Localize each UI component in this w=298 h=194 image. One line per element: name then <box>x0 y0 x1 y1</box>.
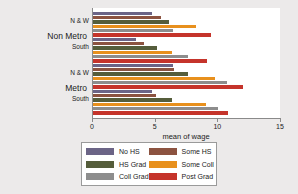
outer-group-label-non-metro: Non Metro <box>47 31 87 41</box>
bar <box>93 111 228 115</box>
legend-item-left-2[interactable]: Coll Grad <box>86 171 149 182</box>
bar <box>93 98 172 102</box>
legend-swatch-icon <box>86 173 114 180</box>
legend-swatch-icon <box>149 161 177 168</box>
inner-group-label-nonmetro-south: South <box>72 43 89 50</box>
bar <box>93 103 206 107</box>
legend-swatch-icon <box>86 148 114 155</box>
bar <box>93 68 174 72</box>
x-tick-label-15: 15 <box>276 122 284 131</box>
x-tick-label-5: 5 <box>153 122 157 131</box>
legend-label: HS Grad <box>119 161 146 168</box>
x-tick-label-0: 0 <box>90 122 94 131</box>
bar <box>93 55 188 59</box>
bar <box>93 107 218 111</box>
bar <box>93 20 169 24</box>
bar <box>93 29 173 33</box>
legend-swatch-icon <box>149 173 177 180</box>
bar <box>93 85 243 89</box>
inner-group-label-metro-nw: N & W <box>70 69 89 76</box>
bar <box>93 25 196 29</box>
bar <box>93 46 157 50</box>
legend-item-right-1[interactable]: Some Coll <box>149 159 214 170</box>
x-tick-label-10: 10 <box>213 122 221 131</box>
bar <box>93 59 207 63</box>
legend-swatch-icon <box>86 161 114 168</box>
chart-figure: 051015 mean of wage Non Metro Metro N & … <box>0 0 298 194</box>
bar <box>93 64 173 68</box>
legend-column-left: No HSHS GradColl Grad <box>86 146 149 182</box>
legend-item-right-2[interactable]: Post Grad <box>149 171 214 182</box>
legend: No HSHS GradColl Grad Some HSSome CollPo… <box>81 142 217 186</box>
x-axis-line <box>92 118 280 119</box>
bar <box>93 77 215 81</box>
legend-item-right-0[interactable]: Some HS <box>149 146 214 157</box>
y-axis-line <box>92 8 93 118</box>
legend-label: Coll Grad <box>119 173 149 180</box>
bar <box>93 94 156 98</box>
legend-label: No HS <box>119 148 140 155</box>
legend-label: Post Grad <box>182 173 214 180</box>
bar <box>93 42 144 46</box>
bar <box>93 72 188 76</box>
inner-group-label-nonmetro-nw: N & W <box>70 17 89 24</box>
bar <box>93 33 211 37</box>
bar <box>93 12 152 16</box>
x-axis-title: mean of wage <box>92 132 280 141</box>
legend-item-left-0[interactable]: No HS <box>86 146 149 157</box>
inner-group-label-metro-south: South <box>72 95 89 102</box>
bar <box>93 51 172 55</box>
legend-label: Some Coll <box>182 161 214 168</box>
bar <box>93 81 227 85</box>
legend-label: Some HS <box>182 148 212 155</box>
bar <box>93 38 136 42</box>
outer-group-label-metro: Metro <box>65 83 87 93</box>
legend-swatch-icon <box>149 148 177 155</box>
legend-item-left-1[interactable]: HS Grad <box>86 159 149 170</box>
legend-column-right: Some HSSome CollPost Grad <box>149 146 214 182</box>
bar <box>93 90 152 94</box>
bar <box>93 16 161 20</box>
